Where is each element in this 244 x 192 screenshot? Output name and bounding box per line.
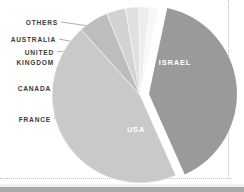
pie-svg: ISRAEL USA (0, 0, 244, 192)
callout-label-united-kingdom-line2: KINGDOM (6, 58, 54, 68)
callout-label-australia: AUSTRALIA (7, 35, 56, 45)
pie-chart-figure: ISRAEL USA OTHERS AUSTRALIA UNITED KINGD… (0, 0, 244, 192)
callout-label-united-kingdom: UNITED KINGDOM (6, 48, 54, 67)
slice-label-israel: ISRAEL (159, 58, 191, 67)
callout-label-united-kingdom-line1: UNITED (6, 48, 54, 58)
callout-label-france: FRANCE (6, 115, 51, 125)
pie-slice-group (52, 7, 237, 183)
slice-label-usa: USA (127, 125, 145, 134)
callout-label-others: OTHERS (7, 18, 58, 28)
callout-label-canada: CANADA (6, 84, 51, 94)
